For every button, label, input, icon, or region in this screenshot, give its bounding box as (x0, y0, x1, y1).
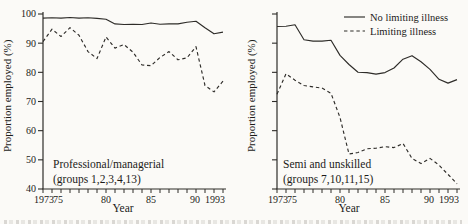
y-axis-title: Proportion employed (%) (245, 39, 258, 152)
y-tick-label: 50 (26, 154, 36, 165)
x-tick-label: 1973 (34, 194, 54, 205)
x-tick-label: 80 (101, 194, 111, 205)
x-tick-label: 1973 (268, 194, 288, 205)
x-axis-title: Year (112, 202, 133, 214)
x-tick-label: 1993 (205, 194, 225, 205)
y-ticks (272, 14, 277, 189)
y-tick-label: 100 (21, 8, 36, 19)
y-tick-label: 90 (26, 38, 36, 49)
legend-label: No limiting illness (370, 12, 448, 23)
x-tick-label: 1993 (439, 194, 459, 205)
panel-annotation: Semi and unskilled (283, 158, 371, 170)
x-tick-label: 85 (146, 194, 156, 205)
panel-annotation: Professional/managerial (53, 158, 164, 171)
legend-item-limiting-illness: Limiting illness (344, 26, 436, 37)
cropped-caption-strip (4, 220, 462, 224)
legend-label: Limiting illness (370, 26, 436, 37)
left-panel-professional-managerial: 4050607080901001973758085901993Professio… (0, 0, 234, 224)
two-panel-employment-figure: 4050607080901001973758085901993Professio… (0, 0, 468, 224)
y-tick-label: 40 (26, 183, 36, 194)
series-no-limiting-illness-line (43, 18, 223, 34)
right-chart: 1973758085901993Semi and unskilled(group… (234, 0, 468, 224)
series-limiting-illness-line (43, 28, 223, 92)
y-tick-label: 70 (26, 96, 36, 107)
right-panel-semi-unskilled: 1973758085901993Semi and unskilled(group… (234, 0, 468, 224)
y-tick-label: 80 (26, 67, 36, 78)
x-tick-label: 90 (190, 194, 200, 205)
x-ticks: 1973758085901993 (268, 189, 459, 205)
legend-item-no-limiting-illness: No limiting illness (344, 12, 448, 23)
panel-annotation: (groups 7,10,11,15) (283, 173, 373, 186)
panel-annotation: (groups 1,2,3,4,13) (53, 173, 141, 186)
left-chart: 4050607080901001973758085901993Professio… (0, 0, 234, 224)
x-tick-label: 90 (424, 194, 434, 205)
y-axis-title: Proportion employed (%) (1, 39, 14, 152)
y-ticks: 405060708090100 (21, 8, 43, 194)
x-tick-label: 75 (287, 194, 297, 205)
y-tick-label: 60 (26, 125, 36, 136)
legend: No limiting illnessLimiting illness (344, 12, 448, 37)
x-axis-title: Year (338, 202, 359, 214)
x-tick-label: 75 (53, 194, 63, 205)
x-tick-label: 85 (380, 194, 390, 205)
